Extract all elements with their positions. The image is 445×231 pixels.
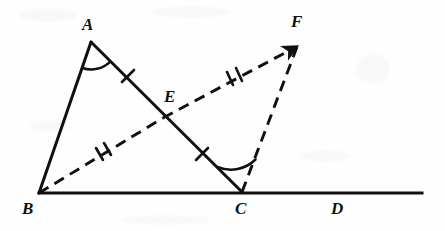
tick-double-EF-2 (236, 68, 242, 81)
vertex-label-B: B (22, 200, 33, 217)
segment-AB (39, 42, 91, 193)
vertex-label-E: E (164, 88, 175, 105)
vertex-label-D: D (331, 200, 343, 217)
diagram-canvas (0, 0, 445, 231)
angle-arc-A (82, 62, 110, 70)
geometry-figure: A B C D E F (0, 0, 445, 231)
vertex-label-A: A (82, 16, 93, 33)
segment-CF-dashed (242, 47, 297, 192)
vertex-label-F: F (291, 13, 302, 30)
vertex-label-C: C (235, 200, 246, 217)
